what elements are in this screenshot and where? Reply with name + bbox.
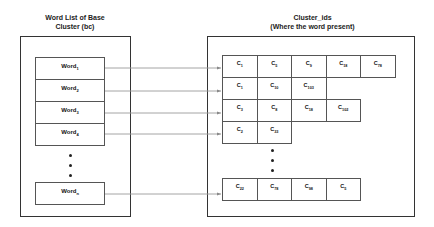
mapping-arrows — [0, 0, 434, 227]
